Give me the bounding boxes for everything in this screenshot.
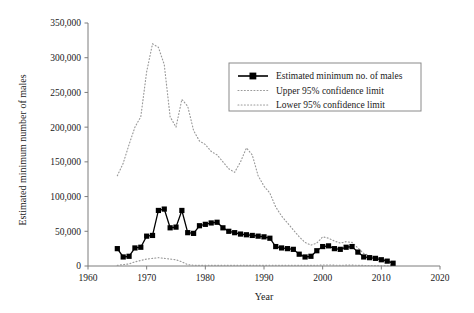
- data-point-marker: [361, 254, 366, 259]
- data-point-marker: [238, 231, 243, 236]
- legend-item-label: Lower 95% confidence limit: [276, 100, 385, 110]
- y-axis-tick-label: 300,000: [50, 53, 81, 63]
- data-point-marker: [232, 230, 237, 235]
- y-axis-title: Estimated minimum number of males: [17, 74, 28, 225]
- data-point-marker: [244, 232, 249, 237]
- y-axis-tick-label: 100,000: [50, 192, 81, 202]
- x-axis-tick-label: 1970: [137, 273, 156, 283]
- data-point-marker: [297, 252, 302, 257]
- data-point-marker: [338, 247, 343, 252]
- data-point-marker: [138, 245, 143, 250]
- data-point-marker: [132, 245, 137, 250]
- y-axis-tick-label: 350,000: [50, 18, 81, 28]
- data-point-marker: [314, 248, 319, 253]
- legend-item-label: Upper 95% confidence limit: [276, 86, 384, 96]
- data-point-marker: [344, 245, 349, 250]
- data-point-marker: [367, 255, 372, 260]
- data-point-marker: [203, 222, 208, 227]
- data-point-marker: [173, 225, 178, 230]
- data-point-marker: [168, 225, 173, 230]
- data-point-marker: [162, 206, 167, 211]
- data-point-marker: [156, 208, 161, 213]
- data-point-marker: [373, 256, 378, 261]
- legend-swatch-marker: [250, 73, 257, 80]
- data-point-marker: [144, 234, 149, 239]
- x-axis-tick-label: 2010: [372, 273, 391, 283]
- data-point-marker: [279, 245, 284, 250]
- y-axis-tick-marks: [85, 23, 89, 266]
- y-axis-tick-label: 150,000: [50, 157, 81, 167]
- line-chart: 050,000100,000150,000200,000250,000300,0…: [0, 0, 474, 313]
- x-axis-tick-label: 2020: [431, 273, 450, 283]
- x-axis-title: Year: [255, 291, 274, 302]
- data-point-marker: [326, 243, 331, 248]
- x-axis-tick-label: 2000: [313, 273, 332, 283]
- data-point-marker: [126, 254, 131, 259]
- y-axis-tick-labels: 050,000100,000150,000200,000250,000300,0…: [50, 18, 81, 271]
- chart-page: 050,000100,000150,000200,000250,000300,0…: [0, 0, 474, 313]
- data-point-marker: [273, 244, 278, 249]
- data-point-marker: [267, 236, 272, 241]
- data-point-marker: [191, 231, 196, 236]
- series-estimated-minimum-males: [117, 209, 393, 263]
- data-point-marker: [390, 261, 395, 266]
- x-axis-tick-label: 1980: [196, 273, 215, 283]
- y-axis-tick-label: 50,000: [55, 227, 81, 237]
- data-point-marker: [285, 246, 290, 251]
- y-axis-tick-label: 200,000: [50, 123, 81, 133]
- data-point-marker: [150, 233, 155, 238]
- data-point-marker: [385, 259, 390, 264]
- data-point-marker: [197, 223, 202, 228]
- series-lower-confidence-limit: [117, 258, 393, 266]
- y-axis-tick-label: 0: [76, 261, 81, 271]
- data-point-marker: [209, 220, 214, 225]
- data-point-marker: [256, 234, 261, 239]
- x-axis-tick-label: 1990: [255, 273, 274, 283]
- data-point-marker: [349, 244, 354, 249]
- x-axis-tick-marks: [88, 266, 440, 270]
- data-point-marker: [226, 229, 231, 234]
- data-point-marker: [291, 247, 296, 252]
- data-point-marker: [250, 233, 255, 238]
- data-point-marker: [379, 257, 384, 262]
- x-axis-tick-label: 1960: [79, 273, 98, 283]
- chart-legend: Estimated minimum no. of malesUpper 95% …: [229, 63, 421, 111]
- data-point-marker: [220, 225, 225, 230]
- data-point-marker: [308, 254, 313, 259]
- y-axis-tick-label: 250,000: [50, 88, 81, 98]
- x-axis-tick-labels: 1960197019801990200020102020: [79, 273, 450, 283]
- data-point-marker: [185, 230, 190, 235]
- data-point-marker: [261, 234, 266, 239]
- data-point-marker: [179, 208, 184, 213]
- data-point-marker: [302, 254, 307, 259]
- data-point-marker: [332, 246, 337, 251]
- data-point-marker: [214, 220, 219, 225]
- legend-item-label: Estimated minimum no. of males: [276, 71, 403, 81]
- data-point-marker: [355, 250, 360, 255]
- data-point-marker: [115, 246, 120, 251]
- data-point-marker: [320, 244, 325, 249]
- data-point-marker: [121, 254, 126, 259]
